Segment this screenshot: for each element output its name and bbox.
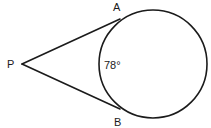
- vertex-label-p: P: [7, 58, 14, 70]
- vertex-label-b: B: [114, 116, 121, 128]
- angle-measure-label: 78°: [104, 59, 121, 71]
- geometry-canvas: P A B 78°: [0, 0, 211, 128]
- geometry-diagram: P A B 78°: [0, 0, 211, 128]
- vertex-label-a: A: [113, 1, 121, 13]
